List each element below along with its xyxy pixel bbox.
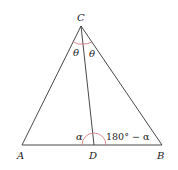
segment-cb bbox=[81, 26, 162, 145]
point-label-b: B bbox=[156, 150, 164, 161]
angle-label-theta-right: θ bbox=[89, 48, 95, 59]
triangle-diagram: C A B D θ θ α 180° − α bbox=[0, 0, 178, 170]
angle-label-theta-left: θ bbox=[73, 47, 79, 58]
angle-arc-theta-left bbox=[74, 42, 84, 44]
point-label-d: D bbox=[88, 150, 97, 161]
point-label-a: A bbox=[16, 150, 24, 161]
angle-arc-theta-right bbox=[83, 42, 92, 44]
triangle-edges bbox=[22, 26, 162, 145]
segment-ca bbox=[22, 26, 81, 145]
angle-label-180-minus-alpha: 180° − α bbox=[106, 131, 150, 142]
point-label-c: C bbox=[77, 12, 85, 23]
angle-label-alpha: α bbox=[76, 131, 83, 142]
